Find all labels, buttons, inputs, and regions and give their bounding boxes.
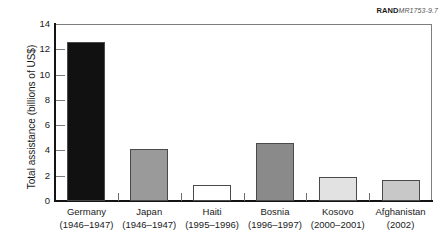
x-axis-tick-mark xyxy=(306,193,307,201)
y-axis-tick-mark xyxy=(56,24,65,25)
category-name: Afghanistan xyxy=(363,205,438,218)
y-axis-tick-mark xyxy=(56,100,65,101)
figure-number: MR1753-9.7 xyxy=(398,7,438,14)
y-axis-tick-mark xyxy=(56,176,65,177)
rand-logo-text: RAND xyxy=(376,6,398,15)
x-axis-category-label: Afghanistan(2002) xyxy=(363,205,438,231)
y-axis-tick-mark xyxy=(56,75,65,76)
x-axis-tick-mark xyxy=(118,193,119,201)
x-axis-category-labels: Germany(1946–1947)Japan(1946–1947)Haiti(… xyxy=(55,205,432,243)
y-axis-tick-label: 8 xyxy=(28,95,50,105)
bars-group xyxy=(55,24,432,201)
y-axis-tick-mark xyxy=(56,49,65,50)
y-axis-tick-label: 10 xyxy=(28,70,50,80)
category-period: (2002) xyxy=(363,218,438,231)
x-axis-tick-mark xyxy=(369,193,370,201)
bar-bosnia xyxy=(256,143,294,201)
y-axis-tick-label: 2 xyxy=(28,171,50,181)
y-axis-tick-label: 6 xyxy=(28,120,50,130)
bar-germany xyxy=(67,42,105,201)
y-axis-tick-mark xyxy=(56,150,65,151)
bar-japan xyxy=(130,149,168,201)
x-axis-tick-mark xyxy=(181,193,182,201)
figure-id: RANDMR1753-9.7 xyxy=(376,7,438,15)
bar-afghanistan xyxy=(382,180,420,201)
y-axis-tick-label: 4 xyxy=(28,146,50,156)
bar-kosovo xyxy=(319,177,357,201)
y-axis-tick-mark xyxy=(56,125,65,126)
bar-haiti xyxy=(193,185,231,201)
y-axis-tick-labels: 02468101214 xyxy=(24,0,50,243)
y-axis-tick-label: 0 xyxy=(28,196,50,206)
bar-chart: RANDMR1753-9.7 Total assistance (billion… xyxy=(0,0,444,243)
y-axis-tick-label: 14 xyxy=(28,19,50,29)
y-axis-tick-label: 12 xyxy=(28,45,50,55)
x-axis-tick-mark xyxy=(244,193,245,201)
